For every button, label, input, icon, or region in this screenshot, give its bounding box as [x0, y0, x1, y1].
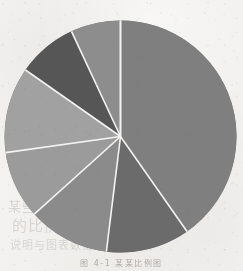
figure-page: 某些文字的比例说明与图表数据对照参考 图 4-1 某某比例图 — [0, 0, 243, 271]
pie-chart — [0, 0, 243, 271]
pie-slice-group — [5, 21, 237, 253]
figure-caption: 图 4-1 某某比例图 — [0, 259, 243, 269]
